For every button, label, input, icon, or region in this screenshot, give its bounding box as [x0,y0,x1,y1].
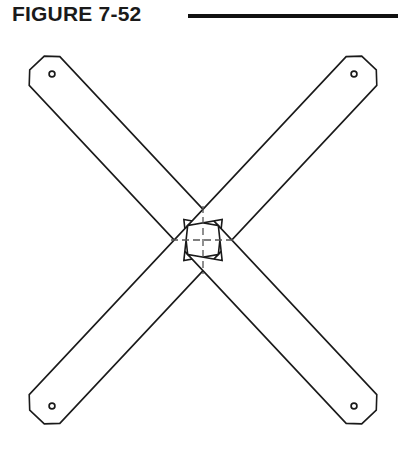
arm-lower-left-bolt-hole-bore [51,405,54,408]
drawing-area [0,30,405,459]
arm-upper-left-bolt-hole-bore [51,73,54,76]
figure-page: FIGURE 7-52 [0,0,405,459]
figure-label: FIGURE 7-52 [12,1,141,27]
arm-upper-right-bolt-hole-bore [353,73,356,76]
arm-lower-right-bolt-hole-bore [353,405,356,408]
cross-brace-drawing [0,30,405,459]
caption-rule [188,14,398,18]
figure-caption-bar: FIGURE 7-52 [0,0,405,34]
